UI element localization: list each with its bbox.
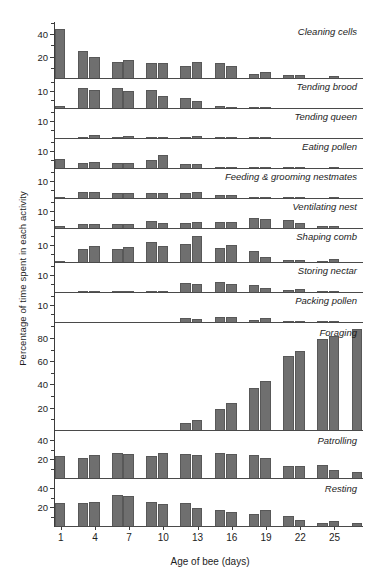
bar (249, 455, 259, 478)
bar (180, 454, 190, 478)
panel-cleaning-cells: Cleaning cells (55, 22, 363, 79)
x-tick-label: 22 (295, 532, 306, 543)
bar (112, 249, 122, 262)
bar (89, 246, 99, 263)
panel-storing-nectar: Storing nectar (55, 263, 363, 293)
x-tick-label: 4 (92, 532, 98, 543)
series-label: Resting (325, 483, 357, 494)
bar (215, 453, 225, 478)
bar (158, 155, 168, 168)
y-tick-label: 20 (37, 502, 48, 513)
series-label: Feeding & grooming nestmates (225, 171, 357, 182)
bar (215, 248, 225, 262)
x-tick-label: 1 (58, 532, 64, 543)
x-tick-label: 19 (260, 532, 271, 543)
bar (55, 456, 65, 478)
bar (226, 403, 236, 430)
bar (283, 516, 293, 526)
bar (112, 62, 122, 78)
bar (329, 470, 339, 478)
bar (352, 329, 362, 430)
bar (146, 456, 156, 478)
bar (158, 96, 168, 108)
x-tick-label: 10 (158, 532, 169, 543)
panel-baseline (55, 526, 363, 527)
panel-ventilating-nest: Ventilating nest (55, 199, 363, 229)
bar (78, 88, 88, 108)
series-label: Patrolling (317, 435, 357, 446)
y-tick-label: 80 (37, 332, 48, 343)
bar (192, 101, 202, 108)
bar (78, 51, 88, 78)
series-label: Shaping comb (296, 231, 357, 242)
bar (226, 454, 236, 478)
bar (158, 63, 168, 78)
panel-tending-brood: Tending brood (55, 79, 363, 109)
x-tick (232, 527, 233, 530)
series-label: Storing nectar (298, 265, 357, 276)
bar (192, 284, 202, 292)
bar (112, 495, 122, 526)
bar (146, 502, 156, 526)
bar (226, 284, 236, 292)
panel-tending-queen: Tending queen (55, 109, 363, 139)
x-tick-label: 16 (226, 532, 237, 543)
y-tick-label: 40 (37, 434, 48, 445)
bar (112, 453, 122, 478)
bar (249, 514, 259, 526)
bar (226, 512, 236, 526)
bar (123, 496, 133, 526)
x-tick-label: 7 (126, 532, 132, 543)
y-axis-label: Percentage of time spent in each activit… (17, 129, 28, 429)
bar (283, 466, 293, 478)
bar (260, 458, 270, 478)
series-label: Tending queen (294, 111, 357, 122)
plot-area (55, 479, 363, 527)
bar (215, 409, 225, 430)
bar (180, 66, 190, 78)
bar (317, 339, 327, 430)
bee-activity-chart: Percentage of time spent in each activit… (0, 0, 370, 581)
panel-stack: Cleaning cellsTending broodTending queen… (55, 22, 363, 527)
bar (55, 29, 65, 78)
bar (249, 388, 259, 430)
bar (180, 423, 190, 430)
bar (192, 62, 202, 78)
bar (146, 90, 156, 108)
y-tick-label: 10 (37, 269, 48, 280)
bar (226, 66, 236, 78)
y-tick-label: 10 (37, 205, 48, 216)
series-label: Cleaning cells (298, 26, 357, 37)
y-tick-label: 40 (37, 482, 48, 493)
panel-eating-pollen: Eating pollen (55, 139, 363, 169)
bar (78, 249, 88, 262)
x-tick (266, 527, 267, 530)
x-tick-label: 25 (329, 532, 340, 543)
bar (123, 454, 133, 478)
bar (123, 60, 133, 78)
bar (295, 351, 305, 430)
y-tick-label: 10 (37, 115, 48, 126)
panel-packing-pollen: Packing pollen (55, 293, 363, 323)
y-tick-label: 40 (37, 379, 48, 390)
bar (89, 57, 99, 78)
series-label: Foraging (320, 327, 358, 338)
bar (260, 381, 270, 430)
y-tick-label: 20 (37, 51, 48, 62)
bar (180, 503, 190, 526)
bar (317, 465, 327, 478)
x-tick (163, 527, 164, 530)
bar (260, 510, 270, 526)
y-tick-label: 10 (37, 239, 48, 250)
bar (215, 510, 225, 526)
x-tick (129, 527, 130, 530)
bar (158, 453, 168, 478)
bar (55, 159, 65, 168)
x-tick (61, 527, 62, 530)
x-tick (198, 527, 199, 530)
bar (283, 220, 293, 228)
bar (146, 160, 156, 168)
series-label: Ventilating nest (292, 201, 357, 212)
bar (146, 242, 156, 262)
y-tick-label: 10 (37, 145, 48, 156)
